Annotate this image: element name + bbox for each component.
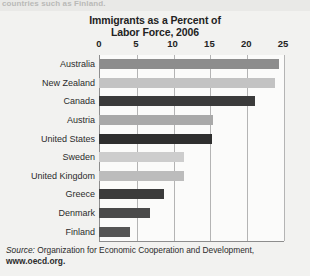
source-lead: Source: <box>6 245 35 255</box>
bar-row: Austria <box>0 111 310 130</box>
x-tick-label-0: 0 <box>96 38 101 49</box>
x-tick-label-25: 25 <box>278 38 289 49</box>
source-note: Source: Organization for Economic Cooper… <box>6 245 306 266</box>
x-axis-tick-labels: 0510152025 <box>0 38 310 52</box>
bar-new-zealand <box>99 78 275 88</box>
bar-row: Canada <box>0 92 310 111</box>
bar-row: Denmark <box>0 204 310 223</box>
x-tick-label-10: 10 <box>167 38 178 49</box>
bar-row: Greece <box>0 185 310 204</box>
bar-united-kingdom <box>99 171 184 181</box>
bar-greece <box>99 189 164 199</box>
bar-row: Sweden <box>0 148 310 167</box>
category-label-canada: Canada <box>63 96 95 106</box>
category-label-finland: Finland <box>65 227 95 237</box>
category-label-sweden: Sweden <box>62 152 95 162</box>
bar-finland <box>99 227 130 237</box>
x-axis-line <box>99 241 284 242</box>
x-tick-label-15: 15 <box>204 38 215 49</box>
category-label-new-zealand: New Zealand <box>42 78 95 88</box>
bar-row: United Kingdom <box>0 167 310 186</box>
bar-united-states <box>99 134 212 144</box>
bar-canada <box>99 96 255 106</box>
source-url[interactable]: www.oecd.org. <box>6 256 65 266</box>
category-label-denmark: Denmark <box>58 208 95 218</box>
bar-row: New Zealand <box>0 74 310 93</box>
bar-row: Australia <box>0 55 310 74</box>
chart-figure: Immigrants as a Percent of Labor Force, … <box>0 11 310 276</box>
chart-title: Immigrants as a Percent of Labor Force, … <box>0 14 310 38</box>
x-tick-label-5: 5 <box>133 38 138 49</box>
category-label-austria: Austria <box>67 115 95 125</box>
bar-denmark <box>99 208 150 218</box>
category-label-greece: Greece <box>65 189 95 199</box>
source-text: Organization for Economic Cooperation an… <box>35 245 254 255</box>
bar-row: United States <box>0 129 310 148</box>
bar-row: Finland <box>0 222 310 241</box>
chart-title-line-2: Labor Force, 2006 <box>0 26 310 38</box>
bar-austria <box>99 115 213 125</box>
category-label-australia: Australia <box>60 59 95 69</box>
x-tick-label-20: 20 <box>241 38 252 49</box>
bar-sweden <box>99 152 184 162</box>
clipped-body-text: countries such as Finland. <box>0 0 310 11</box>
category-label-united-states: United States <box>41 134 95 144</box>
chart-title-line-1: Immigrants as a Percent of <box>0 14 310 26</box>
category-label-united-kingdom: United Kingdom <box>31 171 95 181</box>
bar-australia <box>99 59 279 69</box>
